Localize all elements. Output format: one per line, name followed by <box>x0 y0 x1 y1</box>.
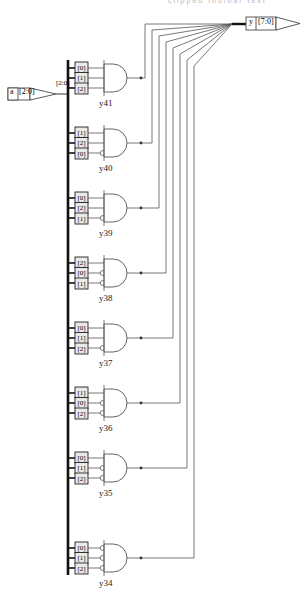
output-routing-wires <box>145 24 246 558</box>
pin-index: [0] <box>75 194 88 202</box>
pin-index: [0] <box>75 324 88 332</box>
pin-index: [1] <box>75 334 88 342</box>
pin-index: [2] <box>75 204 88 212</box>
pin-index: [1] <box>75 129 88 137</box>
pin-index: [0] <box>75 454 88 462</box>
schematic-canvas: clipped toolbar text <box>0 0 308 602</box>
input-port-a[interactable] <box>8 88 68 100</box>
pin-index: [0] <box>75 544 88 552</box>
gate-label: y40 <box>99 164 113 173</box>
pin-index: [1] <box>75 215 88 223</box>
gate-label: y34 <box>99 579 113 588</box>
pin-index: [2] <box>75 259 88 267</box>
input-port-name: a <box>10 88 14 96</box>
output-port-name: y <box>249 18 253 26</box>
gate-label: y38 <box>99 294 113 303</box>
pin-index: [0] <box>75 150 88 158</box>
gate-label: y39 <box>99 229 113 238</box>
pin-index: [2] <box>75 410 88 418</box>
gate-label: y35 <box>99 489 113 498</box>
gate-label: y36 <box>99 424 113 433</box>
input-port-range: [2:0] <box>19 88 35 96</box>
pin-index: [0] <box>75 399 88 407</box>
pin-index: [1] <box>75 280 88 288</box>
gate-label: y41 <box>99 99 113 108</box>
pin-index: [2] <box>75 139 88 147</box>
output-port-range: [7:0] <box>258 18 274 26</box>
pin-index: [2] <box>75 85 88 93</box>
pin-index: [1] <box>75 389 88 397</box>
schematic-svg <box>0 0 308 602</box>
pin-index: [0] <box>75 64 88 72</box>
pin-index: [2] <box>75 475 88 483</box>
pin-index: [0] <box>75 269 88 277</box>
pin-index: [1] <box>75 554 88 562</box>
pin-index: [1] <box>75 74 88 82</box>
gate-label: y37 <box>99 359 113 368</box>
pin-index: [2] <box>75 345 88 353</box>
input-bus-label: [2:0] <box>56 80 70 87</box>
pin-index: [1] <box>75 464 88 472</box>
pin-index: [2] <box>75 565 88 573</box>
